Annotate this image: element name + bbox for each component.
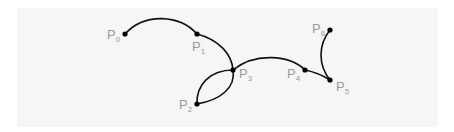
node-p2 <box>194 101 199 106</box>
node-p1 <box>194 31 199 36</box>
node-p5 <box>327 77 332 82</box>
label-p5: P5 <box>336 80 349 98</box>
edge-p0-p1 <box>125 19 197 34</box>
node-p6 <box>327 27 332 32</box>
edge-p2-p3-lower <box>197 70 233 104</box>
node-p4 <box>302 67 307 72</box>
label-p4: P4 <box>287 67 300 85</box>
curve-graph <box>0 0 454 132</box>
label-p1: P1 <box>192 40 205 58</box>
label-p2: P2 <box>179 98 192 116</box>
node-p0 <box>122 31 127 36</box>
label-p0: P0 <box>107 28 120 46</box>
label-p3: P3 <box>239 67 252 85</box>
node-p3 <box>230 67 235 72</box>
label-p6: P6 <box>312 22 325 40</box>
